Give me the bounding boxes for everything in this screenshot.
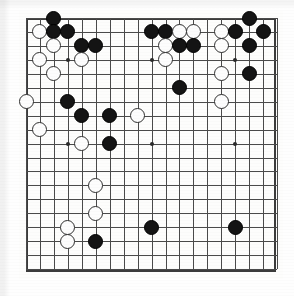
grid-line-horizontal xyxy=(26,269,277,270)
hoshi-point xyxy=(150,142,154,146)
black-stone[interactable] xyxy=(242,38,257,53)
black-stone[interactable] xyxy=(46,11,61,26)
grid-line-vertical xyxy=(249,18,250,269)
board-grid xyxy=(19,11,283,279)
white-stone[interactable] xyxy=(19,94,34,109)
grid-line-vertical xyxy=(138,18,139,269)
white-stone[interactable] xyxy=(60,234,75,249)
black-stone[interactable] xyxy=(228,220,243,235)
grid-line-vertical xyxy=(221,18,222,269)
go-board[interactable] xyxy=(19,11,283,279)
black-stone[interactable] xyxy=(88,234,103,249)
go-diagram-page xyxy=(0,0,294,296)
grid-line-vertical xyxy=(96,18,97,269)
black-stone[interactable] xyxy=(242,66,257,81)
hoshi-point xyxy=(150,58,154,62)
hoshi-point xyxy=(233,58,237,62)
hoshi-point xyxy=(233,142,237,146)
grid-line-vertical xyxy=(124,18,125,269)
grid-line-vertical xyxy=(26,18,27,269)
grid-line-vertical xyxy=(207,18,208,269)
hoshi-point xyxy=(66,58,70,62)
white-stone[interactable] xyxy=(214,66,229,81)
grid-line-vertical xyxy=(179,18,180,269)
white-stone[interactable] xyxy=(88,206,103,221)
grid-line-vertical xyxy=(54,18,55,269)
grid-line-vertical xyxy=(193,18,194,269)
black-stone[interactable] xyxy=(242,11,257,26)
black-stone[interactable] xyxy=(144,220,159,235)
grid-line-vertical xyxy=(263,18,264,269)
hoshi-point xyxy=(66,142,70,146)
grid-line-vertical xyxy=(277,18,278,269)
white-stone[interactable] xyxy=(214,94,229,109)
